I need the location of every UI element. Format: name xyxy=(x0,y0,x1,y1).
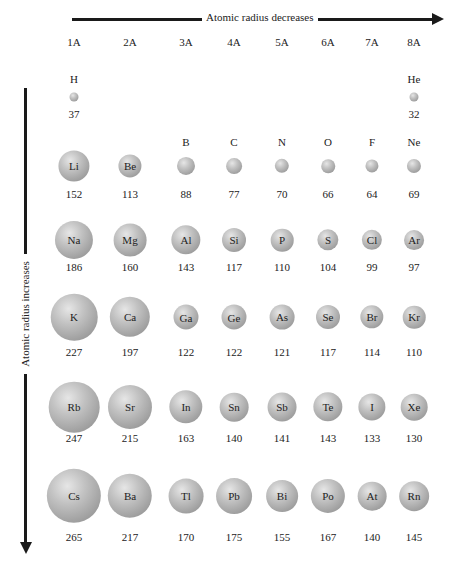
side-arrow-label: Atomic radius increases xyxy=(19,261,31,367)
atomic-radius-value: 186 xyxy=(66,261,83,273)
atomic-radius-value: 175 xyxy=(226,531,243,543)
top-arrow-label: Atomic radius decreases xyxy=(206,11,314,23)
atomic-radius-value: 70 xyxy=(277,188,288,200)
element-symbol: As xyxy=(276,311,288,323)
element-symbol: Br xyxy=(366,311,377,323)
atomic-radius-value: 97 xyxy=(409,261,420,273)
element-symbol: Po xyxy=(322,490,334,502)
atomic-radius-value: 113 xyxy=(122,188,138,200)
element-symbol: Te xyxy=(323,401,334,413)
group-header: 1A xyxy=(67,36,80,48)
atom-br: Br xyxy=(360,305,383,328)
element-symbol: Pb xyxy=(228,490,240,502)
atomic-radius-value: 163 xyxy=(178,432,195,444)
element-symbol: Xe xyxy=(408,401,421,413)
group-header: 7A xyxy=(365,36,378,48)
atom-be: Be xyxy=(118,154,141,177)
atomic-radius-value: 215 xyxy=(122,432,139,444)
group-header: 5A xyxy=(275,36,288,48)
element-symbol: O xyxy=(324,136,332,148)
element-symbol: He xyxy=(408,73,421,85)
atomic-radius-value: 122 xyxy=(178,346,195,358)
atomic-radius-value: 114 xyxy=(364,346,380,358)
atomic-radius-value: 167 xyxy=(320,531,337,543)
group-header: 8A xyxy=(407,36,420,48)
atom-ba: Ba xyxy=(108,474,152,518)
atomic-radius-value: 117 xyxy=(226,261,242,273)
atom-cl: Cl xyxy=(362,230,382,250)
atom-c xyxy=(226,158,242,174)
element-symbol: Ca xyxy=(124,311,136,323)
atomic-radius-value: 121 xyxy=(274,346,291,358)
element-symbol: B xyxy=(182,136,189,148)
element-symbol: Mg xyxy=(122,234,137,246)
element-symbol: Si xyxy=(229,234,238,246)
group-header: 3A xyxy=(179,36,192,48)
atomic-radius-value: 141 xyxy=(274,432,291,444)
atomic-radius-value: 122 xyxy=(226,346,243,358)
atom-po: Po xyxy=(311,479,345,513)
element-symbol: Ge xyxy=(228,311,241,323)
atomic-radius-value: 88 xyxy=(181,188,192,200)
atom-pb: Pb xyxy=(216,478,252,514)
atom-ca: Ca xyxy=(110,297,150,337)
atomic-radius-value: 247 xyxy=(66,432,83,444)
atom-o xyxy=(321,159,335,173)
element-symbol: Na xyxy=(68,234,81,246)
atom-ge: Ge xyxy=(222,305,247,330)
atom-at: At xyxy=(358,482,387,511)
atomic-radius-value: 160 xyxy=(122,261,139,273)
element-symbol: H xyxy=(70,73,78,85)
atom-sr: Sr xyxy=(108,385,152,429)
atomic-radius-value: 110 xyxy=(274,261,290,273)
atom-bi: Bi xyxy=(266,480,298,512)
atomic-radius-value: 77 xyxy=(229,188,240,200)
atom-kr: Kr xyxy=(403,306,426,329)
arrow-head-right-icon xyxy=(432,13,444,25)
atom-ga: Ga xyxy=(174,305,199,330)
atomic-radius-value: 197 xyxy=(122,346,139,358)
element-symbol: Cs xyxy=(68,490,80,502)
element-symbol: Rn xyxy=(408,490,421,502)
atomic-radius-value: 69 xyxy=(409,188,420,200)
atom-b xyxy=(177,157,195,175)
atom-sn: Sn xyxy=(220,393,249,422)
atom-in: In xyxy=(169,390,202,423)
atom-i: I xyxy=(358,393,385,420)
atom-k: K xyxy=(51,294,98,341)
atom-te: Te xyxy=(313,392,342,421)
atom-na: Na xyxy=(55,221,93,259)
atomic-radius-value: 99 xyxy=(367,261,378,273)
atomic-radius-value: 64 xyxy=(367,188,378,200)
element-symbol: S xyxy=(325,234,331,246)
atomic-radius-value: 117 xyxy=(320,346,336,358)
atom-rb: Rb xyxy=(49,382,100,433)
atomic-radius-value: 155 xyxy=(274,531,291,543)
group-header: 6A xyxy=(321,36,334,48)
atom-f xyxy=(365,159,378,172)
element-symbol: N xyxy=(278,136,286,148)
atom-li: Li xyxy=(58,150,89,181)
atomic-radius-value: 37 xyxy=(69,108,80,120)
element-symbol: Kr xyxy=(408,311,420,323)
atomic-radius-value: 140 xyxy=(226,432,243,444)
atom-h xyxy=(70,93,79,102)
atom-mg: Mg xyxy=(114,224,147,257)
atom-n xyxy=(275,159,289,173)
atom-se: Se xyxy=(316,305,340,329)
atomic-radius-value: 110 xyxy=(406,346,422,358)
element-symbol: K xyxy=(70,311,78,323)
atomic-radius-value: 143 xyxy=(320,432,337,444)
atom-s: S xyxy=(317,229,338,250)
element-symbol: Ba xyxy=(124,490,136,502)
group-header: 4A xyxy=(227,36,240,48)
atomic-radius-value: 130 xyxy=(406,432,423,444)
atom-tl: Tl xyxy=(169,479,204,514)
element-symbol: At xyxy=(367,490,378,502)
atomic-radius-value: 217 xyxy=(122,531,139,543)
atom-ne xyxy=(407,159,421,173)
atomic-radius-value: 170 xyxy=(178,531,195,543)
element-symbol: P xyxy=(279,234,285,246)
atomic-radius-value: 227 xyxy=(66,346,83,358)
element-symbol: F xyxy=(369,136,375,148)
